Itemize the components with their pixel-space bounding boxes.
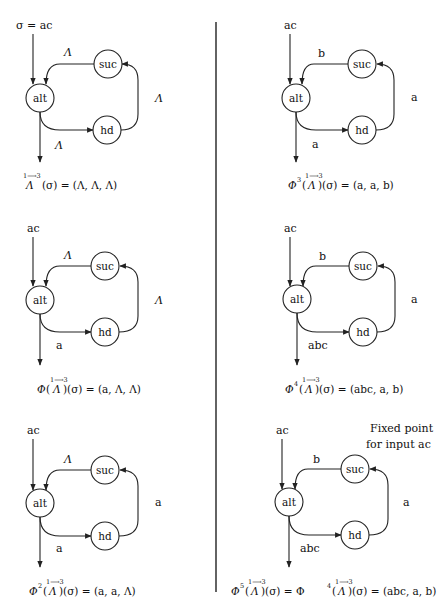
caption-power-2: 4 <box>327 582 331 590</box>
input-label: σ = ac <box>16 19 52 32</box>
caption-lambda-2: Λ <box>337 585 346 597</box>
node-alt-label: alt <box>33 294 48 306</box>
edge-label-suc-alt: b <box>319 250 326 263</box>
panel-iteration-5-fixed-point: ac Fixed point for input ac b a abc alt … <box>231 422 436 597</box>
caption-open-paren: ( <box>302 179 306 191</box>
panel-iteration-3: ac b a a alt suc hd Φ 3 ( 1⟶3 Λ )(σ) = (… <box>282 19 418 191</box>
caption-phi: Φ <box>37 383 46 395</box>
edge-hd-to-suc <box>369 469 388 535</box>
edge-suc-to-alt <box>302 64 348 84</box>
edge-label-output: Λ <box>54 139 63 152</box>
panel-iteration-1: ac Λ Λ a alt suc hd Φ ( 1⟶3 Λ )(σ) = (a,… <box>26 222 163 395</box>
edge-label-output: a <box>312 138 319 151</box>
fixed-point-note-line2: for input ac <box>366 438 431 451</box>
edge-suc-to-alt <box>46 470 91 490</box>
caption-phi: Φ <box>29 585 38 597</box>
edge-alt-to-hd <box>40 314 91 332</box>
edge-label-hd-suc: a <box>411 293 418 306</box>
fixed-point-note-line1: Fixed point <box>370 422 434 435</box>
caption-open-paren: ( <box>245 585 249 597</box>
caption-rhs: )(σ) = (a, a, b) <box>318 179 394 191</box>
caption-phi: Φ <box>231 585 240 597</box>
node-alt-label: alt <box>290 293 305 305</box>
caption-lambda: Λ <box>48 585 57 597</box>
caption-open-paren: ( <box>46 383 50 395</box>
caption-power: 4 <box>294 380 298 388</box>
edge-hd-to-suc <box>119 266 138 332</box>
edge-hd-to-suc <box>377 266 395 332</box>
node-hd-label: hd <box>348 529 362 541</box>
node-suc-label: suc <box>346 463 364 475</box>
caption-open-paren-2: ( <box>332 585 336 597</box>
edge-label-hd-suc: a <box>411 91 418 104</box>
edge-label-output: abc <box>300 542 320 555</box>
edge-label-hd-suc: Λ <box>154 294 163 307</box>
fixed-point-figure: σ = ac Λ Λ Λ alt suc hd 1⟶3 Λ (σ) = (Λ, … <box>0 0 444 600</box>
caption-open-paren: ( <box>43 585 47 597</box>
node-hd-label: hd <box>356 326 370 338</box>
input-label: ac <box>284 222 297 235</box>
input-label: ac <box>284 19 297 32</box>
caption-lambda: Λ <box>307 179 316 191</box>
caption-open-paren: ( <box>299 383 303 395</box>
caption-lambda: Λ <box>304 383 313 395</box>
caption-rhs: )(σ) = (a, Λ, Λ) <box>63 383 141 395</box>
edge-label-output: a <box>56 542 63 555</box>
edge-suc-to-alt <box>295 469 341 489</box>
edge-alt-to-hd <box>297 313 349 332</box>
edge-alt-to-hd <box>40 112 93 130</box>
edge-label-suc-alt: b <box>318 47 325 60</box>
edge-label-output: abc <box>308 339 328 352</box>
node-suc-label: suc <box>96 464 114 476</box>
edge-label-suc-alt: Λ <box>63 453 72 466</box>
node-hd-label: hd <box>100 124 114 136</box>
node-alt-label: alt <box>33 497 48 509</box>
caption-lambda: Λ <box>250 585 259 597</box>
panel-iteration-4: ac b a abc alt suc hd Φ 4 ( 1⟶3 Λ )(σ) =… <box>283 222 418 395</box>
edge-alt-to-hd <box>289 516 341 535</box>
node-hd-label: hd <box>98 326 112 338</box>
edge-hd-to-suc <box>119 470 138 536</box>
edge-label-suc-alt: Λ <box>63 46 72 59</box>
edge-suc-to-alt <box>46 266 91 286</box>
edge-label-output: a <box>56 339 63 352</box>
edge-alt-to-hd <box>296 112 348 130</box>
node-suc-label: suc <box>96 260 114 272</box>
input-label: ac <box>27 222 40 235</box>
edge-label-suc-alt: Λ <box>63 249 72 262</box>
edge-label-suc-alt: b <box>313 453 320 466</box>
caption-lambda: Λ <box>25 179 34 191</box>
node-alt-label: alt <box>33 92 48 104</box>
caption-power: 3 <box>297 176 301 184</box>
panel-iteration-0: σ = ac Λ Λ Λ alt suc hd 1⟶3 Λ (σ) = (Λ, … <box>16 19 163 191</box>
caption-power: 2 <box>38 582 42 590</box>
edge-label-hd-suc: Λ <box>154 92 163 105</box>
caption-rhs: (σ) = (Λ, Λ, Λ) <box>42 179 117 191</box>
edge-hd-to-suc <box>121 64 138 130</box>
input-label: ac <box>276 424 289 437</box>
input-label: ac <box>27 424 40 437</box>
node-hd-label: hd <box>355 124 369 136</box>
node-alt-label: alt <box>282 496 297 508</box>
edge-alt-to-hd <box>40 517 91 536</box>
node-suc-label: suc <box>99 58 117 70</box>
caption-phi: Φ <box>285 383 294 395</box>
node-suc-label: suc <box>354 260 372 272</box>
node-hd-label: hd <box>98 530 112 542</box>
caption-lambda: Λ <box>52 383 61 395</box>
edge-hd-to-suc <box>376 64 394 130</box>
caption-phi: Φ <box>288 179 297 191</box>
caption-rhs: )(σ) = (abc, a, b) <box>348 585 436 597</box>
node-alt-label: alt <box>289 92 304 104</box>
caption-rhs: )(σ) = (abc, a, b) <box>315 383 403 395</box>
edge-label-hd-suc: a <box>155 496 162 509</box>
caption-power: 5 <box>240 582 244 590</box>
edge-suc-to-alt <box>46 64 94 84</box>
caption-mid: )(σ) = Φ <box>261 585 305 597</box>
node-suc-label: suc <box>353 58 371 70</box>
caption-rhs: )(σ) = (a, a, Λ) <box>59 585 136 597</box>
panel-iteration-2: ac Λ a a alt suc hd Φ 2 ( 1⟶3 Λ )(σ) = (… <box>26 424 162 597</box>
edge-label-hd-suc: a <box>403 496 410 509</box>
edge-suc-to-alt <box>303 266 349 286</box>
